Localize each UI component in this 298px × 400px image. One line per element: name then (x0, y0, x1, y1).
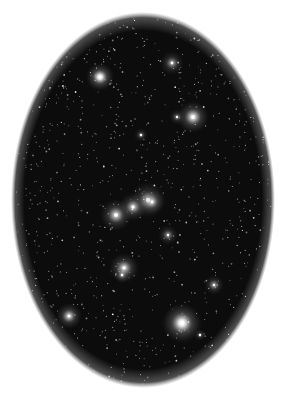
starfield-image (0, 0, 298, 400)
